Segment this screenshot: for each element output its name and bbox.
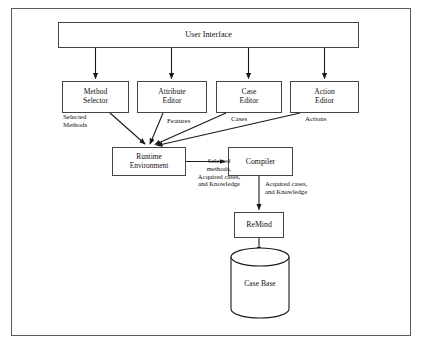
edge-label-acquired-cases-knowledge: Acquired cases, and Knowledge	[265, 180, 337, 196]
edge-label-cases: Cases	[231, 115, 247, 123]
node-case-base-label: Case Base	[231, 248, 289, 318]
node-compiler-label: Compiler	[246, 157, 275, 166]
node-remind[interactable]: ReMind	[234, 212, 284, 238]
node-method-selector[interactable]: Method Selector	[62, 81, 129, 113]
node-remind-label: ReMind	[246, 220, 272, 229]
edge-attribute-editor-to-runtime	[150, 113, 163, 144]
node-runtime-environment-label: Runtime Environment	[130, 153, 169, 170]
edge-method-selector-to-runtime	[110, 113, 145, 144]
node-case-editor-label: Case Editor	[240, 88, 259, 106]
node-case-base[interactable]: Case Base	[231, 248, 289, 318]
node-attribute-editor[interactable]: Attribute Editor	[137, 81, 207, 113]
edge-label-selected-methods-acquired: Selected methods, Acquired cases, and Kn…	[189, 157, 249, 188]
node-user-interface[interactable]: User Interface	[58, 22, 359, 48]
diagram-page: User Interface Method Selector Attribute…	[0, 0, 425, 352]
edge-label-features: Features	[167, 117, 190, 125]
node-case-editor[interactable]: Case Editor	[216, 81, 282, 113]
node-runtime-environment[interactable]: Runtime Environment	[112, 147, 186, 176]
edge-label-selected-methods: Selected Methods	[63, 113, 87, 129]
node-action-editor-label: Action Editor	[314, 88, 335, 106]
edge-label-actions: Actions	[305, 115, 326, 123]
node-action-editor[interactable]: Action Editor	[290, 81, 359, 113]
edge-case-editor-to-runtime	[155, 113, 226, 145]
node-user-interface-label: User Interface	[185, 30, 232, 40]
node-method-selector-label: Method Selector	[83, 88, 108, 106]
node-attribute-editor-label: Attribute Editor	[158, 88, 185, 106]
